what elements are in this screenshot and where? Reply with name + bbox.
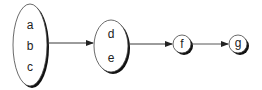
node-set1: a b c: [13, 4, 49, 88]
node-set2: d e: [94, 20, 130, 74]
element-label: g: [235, 36, 242, 50]
element-label: b: [27, 39, 34, 53]
element-label: e: [108, 51, 115, 65]
element-label: c: [27, 60, 33, 74]
node-set3: f: [173, 35, 193, 55]
element-label: a: [27, 18, 34, 32]
diagram-canvas: a b c d e f g: [0, 0, 262, 90]
node-set4: g: [229, 35, 249, 55]
element-label: d: [108, 27, 115, 41]
